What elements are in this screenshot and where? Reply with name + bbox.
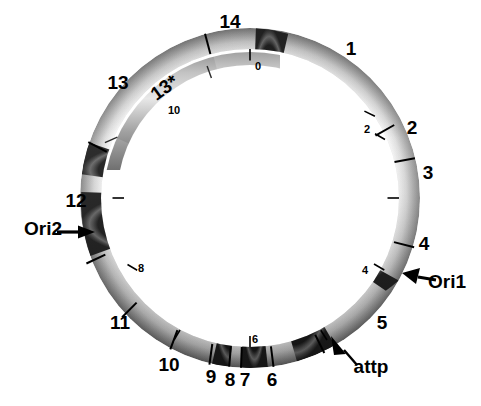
segment-label-2: 2 xyxy=(407,118,418,137)
segment-label-14: 14 xyxy=(219,12,240,31)
segment-label-11: 11 xyxy=(110,313,130,332)
segment-label-6: 6 xyxy=(267,370,278,389)
segment-label-10: 10 xyxy=(158,355,179,374)
feature-label-ori1: Ori1 xyxy=(428,272,466,291)
coordinate-label-6: 6 xyxy=(252,334,258,345)
boundary-tick-6-7 xyxy=(241,347,242,368)
segment-label-4: 4 xyxy=(419,234,430,253)
segment-label-3: 3 xyxy=(423,163,434,182)
feature-label-attp: attp xyxy=(354,357,389,376)
segment-label-1: 1 xyxy=(346,39,357,58)
coordinate-label-2: 2 xyxy=(364,124,370,135)
segment-label-7: 7 xyxy=(240,370,251,389)
segment-label-13: 13 xyxy=(107,73,128,92)
segment-label-5: 5 xyxy=(377,313,388,332)
segment-label-12: 12 xyxy=(65,191,86,210)
coordinate-label-0: 0 xyxy=(255,61,261,72)
coordinate-label-8: 8 xyxy=(138,263,144,274)
coordinate-label-10: 10 xyxy=(168,105,180,116)
feature-label-ori2: Ori2 xyxy=(24,219,62,238)
figure-canvas: 14 1 2 3 4 5 6 7 8 9 10 11 12 13 0 2 4 6… xyxy=(0,0,481,406)
segment-label-8: 8 xyxy=(225,370,236,389)
coordinate-label-4: 4 xyxy=(362,265,368,276)
segment-label-9: 9 xyxy=(206,367,217,386)
